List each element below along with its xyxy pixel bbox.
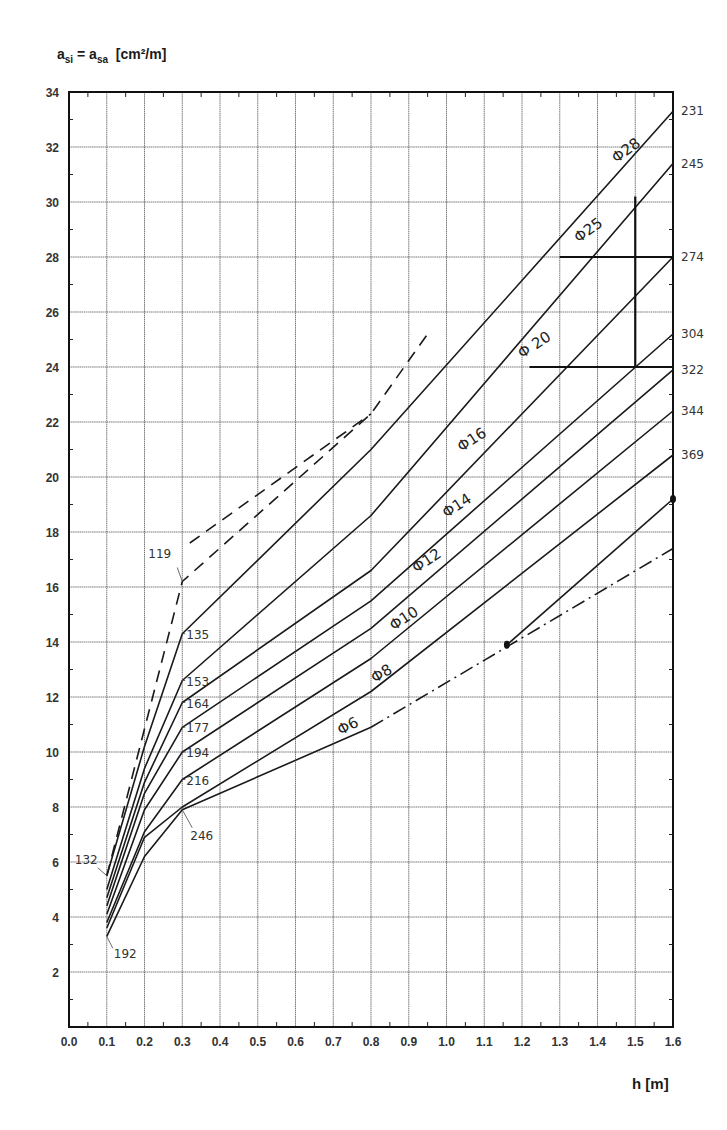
x-tick-label: 0.8	[363, 1035, 380, 1049]
data-point-marker	[504, 641, 510, 649]
curve-start-label: 194	[186, 746, 209, 760]
x-tick-label: 1.5	[627, 1035, 644, 1049]
x-tick-label: 0.9	[400, 1035, 417, 1049]
x-tick-label: 0.5	[249, 1035, 266, 1049]
y-tick-label: 2	[52, 966, 59, 980]
y-tick-label: 24	[46, 361, 60, 375]
series-line	[190, 414, 371, 543]
diameter-label: Φ8	[368, 660, 395, 686]
curve-start-label: 164	[186, 697, 209, 711]
y-tick-label: 22	[46, 416, 60, 430]
diameter-label: Φ25	[570, 214, 606, 247]
diameter-label: Φ10	[386, 602, 422, 634]
curve-start-label: 177	[186, 721, 209, 735]
series-line	[107, 727, 371, 936]
diameter-label: Φ12	[409, 545, 445, 577]
right-curve-label: 231	[681, 104, 704, 118]
curve-start-label: 192	[114, 947, 137, 961]
right-curve-label: 322	[681, 363, 704, 377]
x-tick-label: 1.3	[551, 1035, 568, 1049]
x-tick-label: 0.2	[136, 1035, 153, 1049]
leader-line	[107, 936, 113, 948]
y-tick-label: 28	[46, 251, 60, 265]
y-tick-label: 34	[46, 86, 60, 100]
right-curve-label: 245	[681, 157, 704, 171]
y-tick-label: 4	[52, 911, 59, 925]
x-tick-label: 0.6	[287, 1035, 304, 1049]
x-tick-label: 1.1	[476, 1035, 493, 1049]
y-tick-label: 6	[52, 856, 59, 870]
annotations	[504, 197, 676, 649]
diameter-label: Φ 20	[514, 328, 554, 363]
x-tick-label: 0.0	[61, 1035, 78, 1049]
curve-start-label: 119	[148, 547, 171, 561]
data-point-marker	[670, 495, 676, 503]
y-tick-label: 20	[46, 471, 60, 485]
y-tick-label: 8	[52, 801, 59, 815]
right-curve-label: 304	[681, 327, 704, 341]
curve-start-label: 246	[190, 829, 213, 843]
y-tick-label: 12	[46, 691, 60, 705]
series-line	[107, 455, 673, 928]
y-tick-label: 14	[46, 636, 60, 650]
leader-line	[182, 810, 192, 828]
curve-start-label: 153	[186, 675, 209, 689]
diameter-label: Φ6	[334, 713, 361, 739]
y-tick-label: 10	[46, 746, 60, 760]
leader-line	[98, 868, 107, 876]
x-tick-label: 0.3	[174, 1035, 191, 1049]
y-tick-label: 18	[46, 526, 60, 540]
curve-start-label: 216	[186, 774, 209, 788]
right-curve-label: 344	[681, 404, 704, 418]
x-tick-label: 0.4	[212, 1035, 229, 1049]
x-tick-label: 0.1	[98, 1035, 115, 1049]
chart-plot: 0.00.10.20.30.40.50.60.70.80.91.01.11.21…	[0, 0, 727, 1130]
diameter-label: Φ28	[608, 134, 644, 167]
right-curve-label: 274	[681, 250, 704, 264]
curve-labels: 2312452743043223443691191351531641771942…	[75, 104, 704, 961]
x-tick-label: 1.6	[665, 1035, 682, 1049]
x-tick-label: 1.2	[514, 1035, 531, 1049]
curve-start-label: 135	[186, 628, 209, 642]
x-tick-label: 0.7	[325, 1035, 342, 1049]
y-tick-label: 26	[46, 306, 60, 320]
y-tick-label: 32	[46, 141, 60, 155]
leader-line	[177, 568, 182, 582]
y-tick-label: 16	[46, 581, 60, 595]
right-curve-label: 369	[681, 448, 704, 462]
y-tick-label: 30	[46, 196, 60, 210]
x-tick-label: 1.4	[589, 1035, 606, 1049]
x-tick-label: 1.0	[438, 1035, 455, 1049]
curve-start-label: 132	[75, 853, 98, 867]
